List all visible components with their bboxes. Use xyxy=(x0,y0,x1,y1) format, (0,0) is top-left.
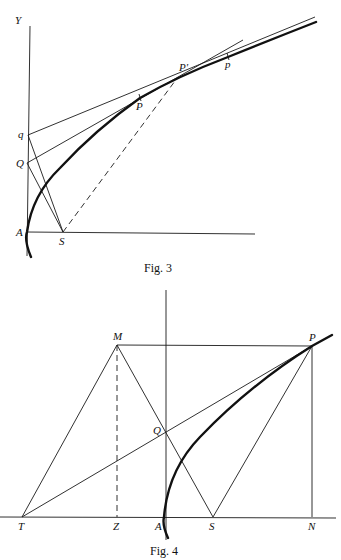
label-A: A xyxy=(154,520,162,532)
horizontal-axis xyxy=(0,517,336,518)
line-TP xyxy=(22,346,312,517)
parabola-curve xyxy=(26,22,316,257)
label-P: P xyxy=(308,331,316,343)
line-SP xyxy=(213,346,312,517)
label-N: N xyxy=(307,520,316,532)
label-Y: Y xyxy=(15,14,23,26)
dashed-line-SP-prime xyxy=(63,77,178,232)
x-axis xyxy=(27,232,255,234)
label-P: P xyxy=(135,100,143,112)
label-P-prime: P' xyxy=(178,61,189,73)
line-MP xyxy=(117,345,312,346)
tangent-line-q xyxy=(28,17,315,135)
label-S: S xyxy=(209,520,215,532)
label-p: p xyxy=(224,58,231,70)
line-MS xyxy=(117,345,213,517)
line-QS xyxy=(27,163,63,232)
label-M: M xyxy=(112,330,123,342)
parabola-curve xyxy=(164,335,333,538)
figure-3-caption: Fig. 3 xyxy=(144,261,172,275)
figure-3: Y q Q A S P P' p Fig. 3 xyxy=(15,14,316,275)
label-q: q xyxy=(18,128,24,140)
label-Q: Q xyxy=(16,157,24,169)
figure-4-caption: Fig. 4 xyxy=(150,544,178,558)
label-S: S xyxy=(59,235,65,247)
label-Q: Q xyxy=(153,424,161,436)
line-TM xyxy=(22,345,117,517)
label-A: A xyxy=(15,226,23,238)
figure-4: M P Q T Z A S N Fig. 4 xyxy=(0,290,336,558)
geometry-figures: Y q Q A S P P' p Fig. 3 M P Q T xyxy=(0,0,341,560)
label-Z: Z xyxy=(113,520,120,532)
label-T: T xyxy=(18,520,25,532)
